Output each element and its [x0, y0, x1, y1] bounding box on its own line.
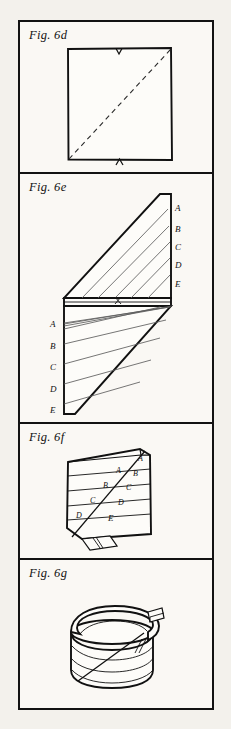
label-6f-right-D: D: [117, 498, 124, 507]
label-left-E: E: [49, 405, 56, 415]
panel-fig-6g: Fig. 6g: [20, 560, 212, 708]
label-6f-right-C: C: [126, 483, 132, 492]
label-6f-left-D: D: [75, 511, 82, 520]
label-left-B: B: [50, 341, 56, 351]
label-6f-right-E: E: [107, 513, 114, 523]
label-6f-right-A: A: [137, 454, 143, 463]
label-right-C: C: [175, 242, 182, 252]
figure-6d-artwork: [20, 22, 212, 172]
label-6f-left-B: B: [103, 481, 108, 490]
panel-fig-6f: Fig. 6f: [20, 424, 212, 560]
label-6f-right-B: B: [133, 469, 138, 478]
label-right-E: E: [174, 279, 181, 289]
label-6f-left-A: A: [115, 466, 121, 475]
figure-6g-artwork: [20, 560, 212, 708]
label-left-C: C: [50, 362, 57, 372]
figure-plate: Fig. 6d Fig. 6e: [18, 20, 214, 710]
upper-parallelogram: [64, 194, 171, 298]
label-left-A: A: [49, 319, 56, 329]
label-left-D: D: [49, 384, 57, 394]
figure-6e-artwork: A B C D E A B C D E: [20, 174, 212, 422]
figure-6f-artwork: A B C D A B C D E: [20, 424, 212, 558]
label-right-B: B: [175, 224, 181, 234]
cylinder-top-rim: [71, 620, 153, 644]
label-right-D: D: [174, 260, 182, 270]
panel-fig-6d: Fig. 6d: [20, 22, 212, 174]
label-right-A: A: [174, 203, 181, 213]
label-6f-left-C: C: [90, 496, 96, 505]
panel-fig-6e: Fig. 6e: [20, 174, 212, 424]
